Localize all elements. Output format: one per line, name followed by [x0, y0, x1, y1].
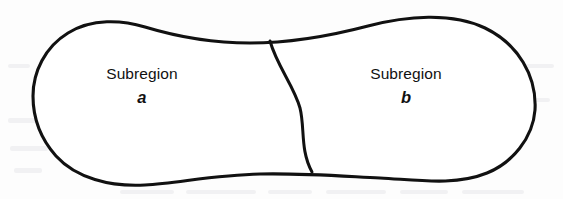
subregion-b-symbol: b [370, 89, 442, 106]
subregion-b-word: Subregion [370, 66, 442, 82]
figure-container: Subregion a Subregion b [0, 0, 563, 199]
subregion-a-symbol: a [106, 89, 178, 106]
subregion-b-label: Subregion b [370, 66, 442, 105]
subregion-a-label: Subregion a [106, 66, 178, 105]
subregion-a-word: Subregion [106, 66, 178, 82]
region-diagram-canvas [0, 0, 563, 199]
